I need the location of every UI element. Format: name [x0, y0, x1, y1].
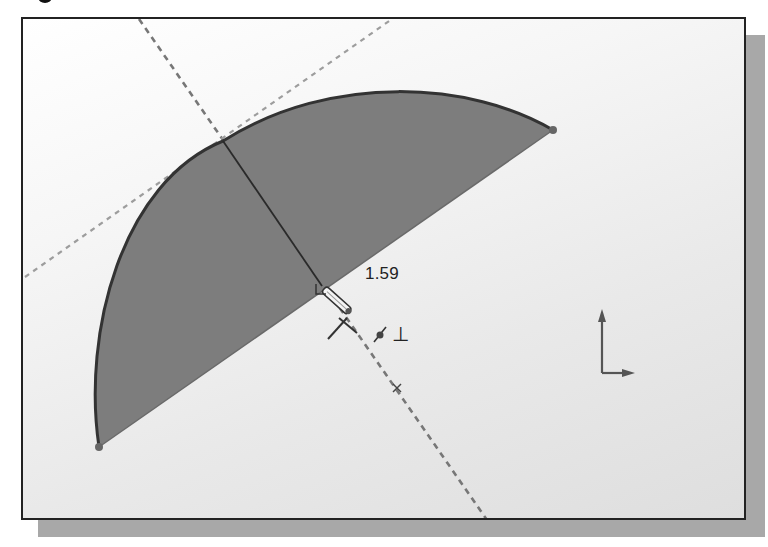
- cropped-heading-glyph: [38, 0, 52, 3]
- perpendicular-relation-icon: [328, 318, 357, 339]
- pencil-cursor-icon: [321, 286, 353, 316]
- dimension-value-label: 1.59: [365, 264, 399, 284]
- arc-start-point[interactable]: [95, 443, 103, 451]
- coordinate-axes-icon: [598, 309, 635, 377]
- arc-end-point[interactable]: [549, 126, 557, 134]
- semicircle-region[interactable]: [95, 92, 553, 447]
- coincident-icon: [374, 327, 386, 342]
- perpendicular-symbol: ⊥: [392, 322, 409, 346]
- graphics-viewport[interactable]: 1.59 ⊥: [21, 17, 746, 520]
